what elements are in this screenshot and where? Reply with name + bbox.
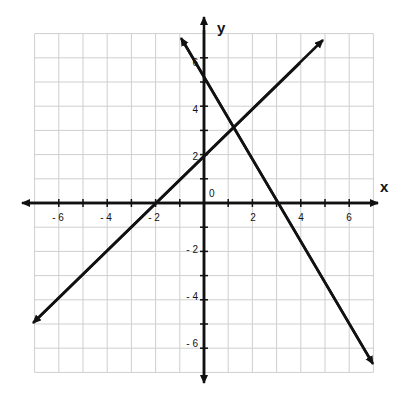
y-tick-label: 2 — [192, 151, 198, 162]
line-y-equals-x-plus-2-tail — [33, 63, 300, 323]
x-tick-labels: - 6 - 4 - 2 2 4 6 — [52, 212, 352, 223]
y-tick-label: - 4 — [186, 291, 198, 302]
x-tick-label: - 2 — [148, 212, 160, 223]
x-tick-label: 2 — [250, 212, 256, 223]
y-tick-label: 6 — [192, 57, 198, 68]
y-axis-label: y — [217, 19, 226, 36]
coordinate-plane: y x 0 - 6 - 4 - 2 2 4 6 6 4 2 - 2 - 4 - … — [0, 0, 408, 399]
y-tick-label: - 6 — [186, 338, 198, 349]
x-tick-label: 6 — [346, 212, 352, 223]
x-tick-label: - 6 — [52, 212, 64, 223]
y-tick-label: 4 — [192, 104, 198, 115]
x-axis-label: x — [380, 178, 389, 195]
origin-label: 0 — [209, 188, 215, 199]
x-tick-label: - 4 — [100, 212, 112, 223]
x-tick-label: 4 — [298, 212, 304, 223]
y-tick-label: - 2 — [186, 244, 198, 255]
